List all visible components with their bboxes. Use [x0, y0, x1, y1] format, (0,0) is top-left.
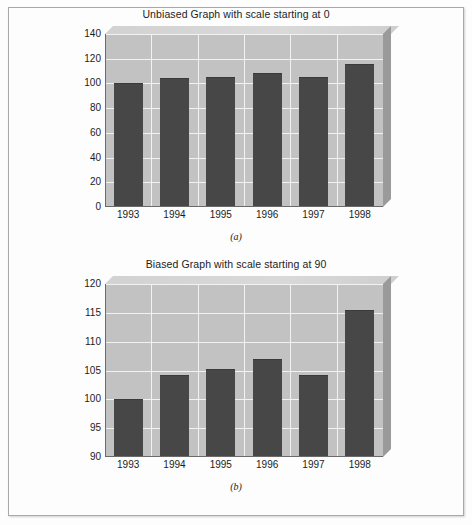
y-tick-label: 20: [90, 177, 101, 187]
x-tick-label: 1998: [337, 209, 383, 221]
bar-slot: [105, 34, 151, 207]
bar-1996: [253, 73, 282, 207]
bar-1998: [345, 310, 374, 457]
bar-1996: [253, 359, 282, 457]
y-tick-label: 90: [90, 452, 101, 462]
bar-1993: [114, 399, 143, 457]
bar-slot: [151, 34, 197, 207]
bar-slot: [151, 284, 197, 457]
chart-b-title: Biased Graph with scale starting at 90: [0, 258, 472, 270]
bar-1997: [299, 375, 328, 457]
bar-1995: [206, 77, 235, 207]
x-tick-label: 1995: [198, 459, 244, 471]
y-tick-label: 100: [84, 78, 101, 88]
y-tick-label: 0: [95, 202, 101, 212]
chart-a-x-axis-line: [105, 206, 383, 207]
bar-1997: [299, 77, 328, 207]
figure-b: Biased Graph with scale starting at 90 9…: [0, 258, 472, 492]
x-tick-label: 1994: [151, 459, 197, 471]
bar-slot: [244, 284, 290, 457]
x-tick-label: 1997: [290, 459, 336, 471]
chart-b-y-axis-line: [105, 284, 106, 457]
bar-1994: [160, 375, 189, 457]
chart-b-x-axis-labels: 199319941995199619971998: [105, 459, 383, 471]
bar-slot: [337, 284, 383, 457]
bar-slot: [290, 34, 336, 207]
y-tick-label: 110: [85, 337, 101, 347]
bar-1993: [114, 83, 143, 207]
chart-a-bars: [105, 34, 383, 207]
x-tick-label: 1995: [198, 209, 244, 221]
y-tick-label: 120: [84, 54, 101, 64]
x-tick-label: 1997: [290, 209, 336, 221]
y-tick-label: 140: [84, 29, 101, 39]
y-tick-label: 40: [90, 153, 101, 163]
bar-slot: [105, 284, 151, 457]
y-tick-label: 105: [84, 366, 101, 376]
y-tick-label: 115: [85, 308, 101, 318]
figure-a-caption: (a): [0, 231, 472, 242]
x-tick-label: 1993: [105, 209, 151, 221]
bar-slot: [198, 284, 244, 457]
x-tick-label: 1998: [337, 459, 383, 471]
y-tick-label: 80: [90, 103, 101, 113]
chart-b-bars: [105, 284, 383, 457]
chart-a-plot-side-face: [383, 26, 391, 207]
chart-a-plot: [105, 26, 391, 207]
chart-b-x-axis-line: [105, 456, 383, 457]
bar-1995: [206, 369, 235, 457]
figure-a: Unbiased Graph with scale starting at 0 …: [0, 8, 472, 242]
figure-b-caption: (b): [0, 481, 472, 492]
bar-slot: [198, 34, 244, 207]
chart-a-y-axis-line: [105, 34, 106, 207]
chart-a-x-axis-labels: 199319941995199619971998: [105, 209, 383, 221]
chart-a-plot-top-face: [105, 26, 399, 34]
chart-b-area: 9095100105110115120 19931994199519961997…: [71, 276, 401, 466]
bar-slot: [290, 284, 336, 457]
y-tick-label: 100: [84, 394, 101, 404]
chart-b-plot: [105, 276, 391, 457]
y-tick-label: 95: [90, 423, 101, 433]
y-tick-label: 120: [84, 279, 101, 289]
chart-a-area: 020406080100120140 199319941995199619971…: [71, 26, 401, 216]
chart-b-plot-top-face: [105, 276, 399, 284]
chart-a-title: Unbiased Graph with scale starting at 0: [0, 8, 472, 20]
x-tick-label: 1996: [244, 209, 290, 221]
chart-a-y-axis-labels: 020406080100120140: [71, 26, 101, 207]
x-tick-label: 1994: [151, 209, 197, 221]
x-tick-label: 1993: [105, 459, 151, 471]
x-tick-label: 1996: [244, 459, 290, 471]
y-tick-label: 60: [90, 128, 101, 138]
bar-slot: [337, 34, 383, 207]
bar-1994: [160, 78, 189, 207]
chart-b-y-axis-labels: 9095100105110115120: [71, 276, 101, 457]
bar-1998: [345, 64, 374, 207]
bar-slot: [244, 34, 290, 207]
chart-b-plot-side-face: [383, 276, 391, 457]
